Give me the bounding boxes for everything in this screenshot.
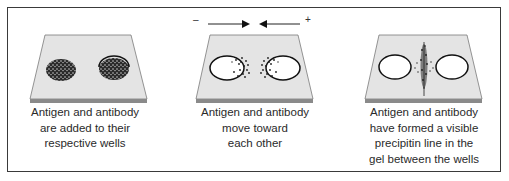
panel-step-3: Antigen and antibody have formed a visib…	[339, 0, 509, 181]
antigen-well	[46, 59, 76, 81]
gel-plate-precipitin-illustration	[339, 0, 509, 110]
arrow-right-icon	[208, 20, 250, 28]
gel-plate-diffusing-illustration	[170, 0, 340, 110]
panel-step-1: Antigen and antibody are added to their …	[0, 0, 170, 181]
caption-step-1: Antigen and antibody are added to their …	[0, 105, 170, 152]
antibody-well	[99, 58, 129, 80]
arrow-left-icon	[259, 20, 300, 28]
panel-step-2: – + Antigen and antibody	[170, 0, 340, 181]
caption-step-2: Antigen and antibody move toward each ot…	[170, 105, 340, 152]
gel-plate-wells-filled-illustration	[0, 0, 170, 110]
caption-step-3: Antigen and antibody have formed a visib…	[339, 105, 509, 167]
